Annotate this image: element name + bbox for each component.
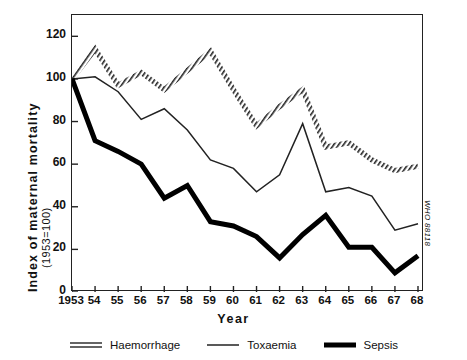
axis-ticks (72, 36, 418, 292)
x-tick-label: 59 (203, 294, 216, 306)
plot-area (71, 14, 423, 291)
x-tick-label: 58 (180, 294, 193, 306)
x-tick-label: 65 (341, 294, 354, 306)
legend-item-haemorrhage[interactable]: Haemorrhage (69, 339, 180, 351)
who-reference-code: WHO 88118 (423, 200, 432, 246)
x-tick-label: 63 (295, 294, 308, 306)
x-tick-label: 56 (134, 294, 147, 306)
x-tick-label: 54 (88, 294, 101, 306)
thick-line-swatch (323, 339, 357, 351)
legend-item-sepsis[interactable]: Sepsis (323, 339, 399, 351)
x-tick-label: 64 (318, 294, 331, 306)
x-tick-label: 61 (249, 294, 262, 306)
y-tick-label: 60 (36, 155, 66, 169)
y-tick-label: 20 (36, 240, 66, 254)
series-canvas (72, 15, 424, 292)
legend-item-toxaemia[interactable]: Toxaemia (206, 339, 296, 351)
x-tick-label: 55 (111, 294, 124, 306)
y-tick-label: 120 (36, 27, 66, 41)
x-tick-label: 1953 (58, 294, 84, 306)
y-axis-tick-labels: 020406080100120 (34, 0, 66, 300)
x-tick-label: 62 (272, 294, 285, 306)
x-tick-label: 67 (388, 294, 401, 306)
x-tick-label: 68 (411, 294, 424, 306)
x-axis-title: Year (0, 312, 467, 326)
double-line-swatch (69, 339, 103, 351)
x-tick-label: 57 (157, 294, 170, 306)
y-tick-label: 100 (36, 70, 66, 84)
x-axis-tick-labels: 1953545556575859606162636465666768 (0, 294, 467, 312)
legend-label: Sepsis (364, 339, 399, 351)
maternal-mortality-line-chart: Index of maternal mortality (1953=100) 0… (0, 0, 467, 360)
legend-label: Haemorrhage (110, 339, 180, 351)
y-tick-label: 40 (36, 198, 66, 212)
y-tick-label: 80 (36, 113, 66, 127)
thin-line-swatch (206, 339, 240, 351)
x-tick-label: 66 (364, 294, 377, 306)
x-tick-label: 60 (226, 294, 239, 306)
legend-label: Toxaemia (247, 339, 296, 351)
chart-legend: HaemorrhageToxaemiaSepsis (0, 334, 467, 356)
